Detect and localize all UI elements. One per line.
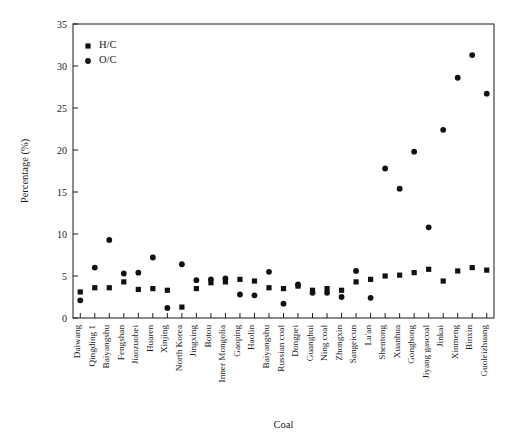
data-point-hc: [150, 286, 155, 291]
x-category-label: Russian coal: [276, 325, 286, 372]
legend-marker-hc: [85, 43, 90, 48]
legend-label: O/C: [99, 54, 117, 65]
y-tick-label: 15: [57, 187, 67, 198]
data-point-oc: [484, 91, 490, 97]
x-category-label: Ning coal: [319, 325, 329, 361]
x-category-label: Inner Mongolia: [217, 325, 227, 382]
data-point-hc: [266, 285, 271, 290]
data-point-oc: [324, 290, 330, 296]
data-point-hc: [107, 285, 112, 290]
data-point-oc: [208, 276, 214, 282]
x-category-label: Huaren: [145, 325, 155, 352]
data-point-hc: [179, 304, 184, 309]
x-category-label: Jinkai: [435, 325, 445, 347]
x-category-label: Daiwang: [72, 325, 82, 359]
y-tick-label: 5: [62, 271, 67, 282]
data-point-hc: [252, 278, 257, 283]
data-point-hc: [484, 268, 489, 273]
data-point-hc: [426, 267, 431, 272]
x-category-label: Botou: [203, 325, 213, 348]
data-point-hc: [383, 273, 388, 278]
data-point-oc: [266, 269, 272, 275]
x-category-label: Binxin: [464, 325, 474, 350]
x-category-label: Zhongxin: [334, 325, 344, 361]
data-point-oc: [455, 75, 461, 81]
x-category-label: Shentong: [377, 325, 387, 360]
x-category-label: Jingxing: [188, 325, 198, 357]
data-point-hc: [470, 265, 475, 270]
data-point-oc: [353, 268, 359, 274]
scatter-chart: 05101520253035 DaiwangQingding 1Baiyangs…: [0, 0, 517, 444]
x-category-label: Fengshan: [116, 325, 126, 361]
data-point-hc: [121, 279, 126, 284]
data-point-oc: [339, 294, 345, 300]
data-point-oc: [150, 255, 156, 261]
y-tick-label: 25: [57, 103, 67, 114]
x-category-label: Qingding 1: [87, 325, 97, 367]
data-point-oc: [411, 149, 417, 155]
x-category-label: Jiyang gascoal: [421, 325, 431, 379]
data-point-hc: [368, 277, 373, 282]
data-points-group: [77, 52, 489, 311]
data-point-oc: [194, 277, 200, 283]
data-point-hc: [194, 286, 199, 291]
data-point-hc: [136, 287, 141, 292]
y-tick-label: 35: [57, 19, 67, 30]
x-category-label: Baiyangshu: [101, 325, 111, 369]
data-point-oc: [121, 271, 127, 277]
data-point-hc: [281, 286, 286, 291]
data-point-hc: [455, 268, 460, 273]
data-point-oc: [77, 297, 83, 303]
data-point-hc: [397, 273, 402, 278]
y-tick-label: 30: [57, 61, 67, 72]
x-axis-title: Coal: [274, 419, 294, 430]
data-point-oc: [426, 224, 432, 230]
data-point-hc: [441, 278, 446, 283]
data-point-oc: [179, 261, 185, 267]
data-point-oc: [135, 270, 141, 276]
data-point-oc: [281, 301, 287, 307]
x-category-label: Jiaozuobei: [130, 325, 140, 365]
y-tick-label: 20: [57, 145, 67, 156]
data-point-oc: [164, 305, 170, 311]
data-point-hc: [237, 277, 242, 282]
x-category-label: North Korea: [174, 325, 184, 371]
data-point-oc: [397, 186, 403, 192]
y-tick-label: 0: [62, 313, 67, 324]
data-point-oc: [295, 282, 301, 288]
data-point-oc: [223, 276, 229, 282]
data-point-hc: [92, 285, 97, 290]
data-point-oc: [382, 166, 388, 172]
x-category-label: Guanghui: [305, 325, 315, 362]
data-point-oc: [92, 265, 98, 271]
x-category-label: Xinjing: [159, 325, 169, 353]
x-category-labels: DaiwangQingding 1BaiyangshuFengshanJiaoz…: [72, 325, 488, 383]
data-point-oc: [237, 292, 243, 298]
data-point-oc: [310, 290, 316, 296]
data-point-oc: [252, 292, 258, 298]
x-category-label: Xinmeng: [450, 325, 460, 360]
x-category-label: Haolin: [246, 325, 256, 350]
x-category-label: Baiyangshu: [261, 325, 271, 369]
x-category-label: Gonghong: [406, 325, 416, 364]
legend-marker-oc: [85, 58, 91, 64]
data-point-hc: [165, 288, 170, 293]
data-point-hc: [339, 288, 344, 293]
legend-label: H/C: [99, 39, 117, 50]
data-point-oc: [440, 127, 446, 133]
data-point-hc: [412, 270, 417, 275]
x-category-label: Gaoping: [232, 325, 242, 357]
data-point-hc: [78, 289, 83, 294]
chart-canvas: 05101520253035 DaiwangQingding 1Baiyangs…: [0, 0, 517, 444]
data-point-oc: [469, 52, 475, 58]
x-category-label: Lu'an: [363, 325, 373, 346]
data-point-hc: [353, 279, 358, 284]
data-point-oc: [106, 237, 112, 243]
x-category-label: Sangeicun: [348, 325, 358, 364]
x-category-label: Dongpei: [290, 325, 300, 357]
x-category-label: Xuanhua: [392, 325, 402, 358]
x-tick-group: [80, 313, 486, 318]
x-category-label: Guoleizhuang: [479, 325, 489, 377]
chart-legend: H/CO/C: [85, 39, 116, 65]
y-tick-label: 10: [57, 229, 67, 240]
